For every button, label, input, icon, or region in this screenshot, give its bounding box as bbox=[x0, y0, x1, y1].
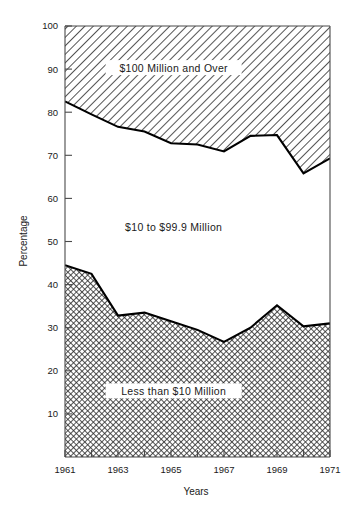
series-annotation-0: $100 Million and Over bbox=[119, 62, 228, 74]
x-tick-label-1963: 1963 bbox=[107, 464, 128, 475]
x-tick-label-1967: 1967 bbox=[213, 464, 234, 475]
x-axis-tick-labels: 196119631965196719691971 bbox=[54, 464, 340, 475]
y-tick-label-20: 20 bbox=[47, 365, 58, 376]
series-annotation-2: Less than $10 Million bbox=[121, 385, 226, 397]
chart-container: 102030405060708090100 196119631965196719… bbox=[0, 0, 354, 512]
x-tick-label-1969: 1969 bbox=[266, 464, 287, 475]
series-annotation-1: $10 to $99.9 Million bbox=[125, 221, 222, 233]
y-axis-title: Percentage bbox=[18, 215, 29, 267]
stacked-area-chart: 102030405060708090100 196119631965196719… bbox=[0, 0, 354, 512]
y-tick-label-90: 90 bbox=[47, 64, 58, 75]
y-tick-label-80: 80 bbox=[47, 107, 58, 118]
y-tick-label-50: 50 bbox=[47, 236, 58, 247]
x-tick-label-1965: 1965 bbox=[160, 464, 181, 475]
y-tick-label-70: 70 bbox=[47, 150, 58, 161]
y-axis-tick-labels: 102030405060708090100 bbox=[42, 20, 58, 419]
y-tick-label-60: 60 bbox=[47, 193, 58, 204]
x-tick-label-1961: 1961 bbox=[54, 464, 75, 475]
x-tick-label-1971: 1971 bbox=[319, 464, 340, 475]
y-tick-label-30: 30 bbox=[47, 322, 58, 333]
y-tick-label-40: 40 bbox=[47, 279, 58, 290]
x-axis-title: Years bbox=[183, 486, 208, 497]
y-tick-label-10: 10 bbox=[47, 408, 58, 419]
y-tick-label-100: 100 bbox=[42, 20, 58, 31]
